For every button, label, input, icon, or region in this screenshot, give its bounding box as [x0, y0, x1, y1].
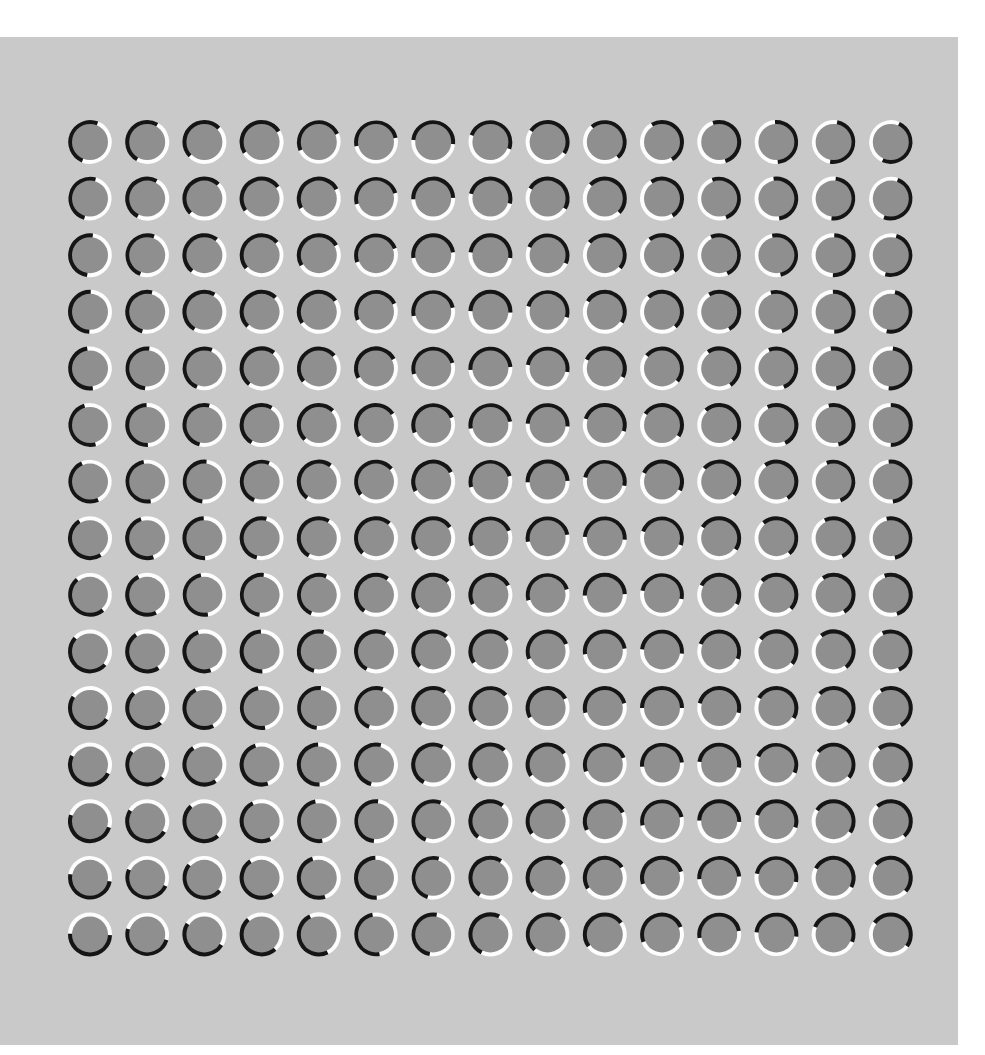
inner-disc	[816, 916, 852, 952]
inner-disc	[816, 181, 852, 217]
inner-disc	[472, 350, 508, 386]
ring-cell	[643, 236, 682, 275]
ring-cell	[871, 858, 910, 897]
ring-cell	[357, 915, 395, 954]
ring-cell	[299, 349, 338, 388]
ring-cell	[242, 292, 281, 331]
inner-disc	[701, 464, 737, 500]
inner-disc	[72, 350, 108, 386]
inner-disc	[701, 237, 737, 273]
ring-cell	[471, 463, 510, 501]
inner-disc	[301, 464, 337, 500]
inner-disc	[358, 577, 394, 613]
ring-cell	[300, 689, 338, 728]
inner-disc	[472, 747, 508, 783]
inner-disc	[644, 916, 680, 952]
ring-cell	[642, 179, 681, 218]
inner-disc	[644, 747, 680, 783]
ring-cell	[128, 802, 167, 841]
ring-cell	[242, 802, 281, 841]
ring-cell	[643, 576, 682, 614]
ring-cell	[643, 519, 682, 557]
inner-disc	[186, 407, 222, 443]
ring-cell	[357, 293, 396, 331]
inner-disc	[758, 294, 794, 330]
inner-disc	[530, 181, 566, 217]
inner-disc	[244, 577, 280, 613]
inner-disc	[129, 577, 165, 613]
inner-disc	[530, 294, 566, 330]
inner-disc	[186, 124, 222, 160]
inner-disc	[644, 350, 680, 386]
inner-disc	[244, 181, 280, 217]
inner-disc	[244, 860, 280, 896]
ring-cell	[700, 915, 739, 953]
inner-disc	[873, 464, 909, 500]
ring-cell	[528, 236, 567, 274]
inner-disc	[129, 803, 165, 839]
ring-cell	[700, 689, 739, 728]
inner-disc	[301, 124, 337, 160]
ring-cell	[872, 632, 910, 671]
ring-cell	[757, 405, 796, 444]
ring-cell	[357, 689, 395, 728]
inner-disc	[415, 803, 451, 839]
ring-cell	[128, 575, 167, 614]
ring-cell	[871, 915, 910, 954]
inner-disc	[873, 577, 909, 613]
ring-cell	[872, 179, 910, 218]
ring-cell	[757, 632, 796, 671]
inner-disc	[873, 181, 909, 217]
inner-disc	[873, 407, 909, 443]
ring-cell	[356, 575, 395, 614]
inner-disc	[644, 690, 680, 726]
ring-cell	[757, 123, 795, 162]
ring-cell	[185, 123, 224, 162]
ring-cell	[71, 406, 109, 445]
inner-disc	[816, 350, 852, 386]
ring-cell	[643, 915, 682, 954]
inner-disc	[873, 747, 909, 783]
inner-disc	[244, 237, 280, 273]
inner-disc	[644, 464, 680, 500]
inner-disc	[415, 577, 451, 613]
ring-cell	[814, 292, 853, 331]
ring-cell	[872, 236, 910, 275]
inner-disc	[472, 124, 508, 160]
ring-cell	[871, 688, 910, 727]
ring-cell	[128, 745, 167, 784]
ring-cell	[185, 802, 224, 841]
ring-cell	[585, 802, 624, 841]
ring-cell	[185, 632, 224, 671]
ring-cell	[299, 745, 338, 784]
ring-cell	[471, 406, 510, 444]
ring-cell	[357, 462, 396, 501]
ring-cell	[185, 745, 224, 784]
ring-cell	[700, 519, 739, 558]
inner-disc	[873, 803, 909, 839]
inner-disc	[644, 520, 680, 556]
ring-cell	[242, 236, 281, 275]
inner-disc	[472, 520, 508, 556]
inner-disc	[530, 520, 566, 556]
ring-cell	[471, 349, 510, 387]
ring-cell	[814, 519, 853, 558]
inner-disc	[758, 464, 794, 500]
ring-cell	[185, 236, 224, 275]
inner-disc	[72, 803, 108, 839]
ring-cell	[357, 236, 396, 274]
inner-disc	[301, 407, 337, 443]
ring-cell	[414, 349, 453, 387]
inner-disc	[72, 633, 108, 669]
ring-cell	[528, 632, 567, 670]
inner-disc	[358, 294, 394, 330]
ring-cell	[700, 745, 739, 784]
inner-disc	[816, 407, 852, 443]
inner-disc	[472, 690, 508, 726]
inner-disc	[415, 633, 451, 669]
ring-cell	[414, 179, 453, 218]
ring-cell	[814, 406, 853, 445]
inner-disc	[530, 916, 566, 952]
ring-cell	[528, 802, 567, 841]
inner-disc	[472, 294, 508, 330]
